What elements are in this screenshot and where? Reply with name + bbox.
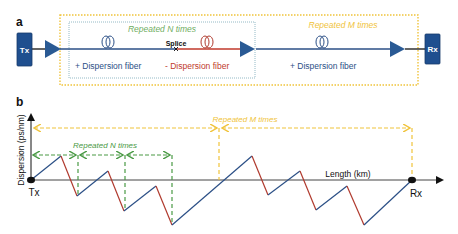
tx-point — [27, 177, 35, 183]
rx-label: Rx — [427, 45, 438, 54]
tx-label: Tx — [20, 46, 30, 55]
panel-b-label: b — [16, 95, 23, 109]
splice-label: Splice — [166, 40, 187, 48]
dispersion-map-figure: a Repeated N times Repeated M times Tx R… — [0, 0, 458, 234]
dispersion-map-curve — [31, 156, 412, 225]
positive-fiber-label-2: + Dispersion fiber — [290, 61, 357, 71]
panel-a-label: a — [16, 15, 23, 29]
amplifier-icon — [390, 41, 405, 57]
repeat-m-label: Repeated M times — [309, 20, 379, 30]
y-axis-label: Dispersion (ps/nm) — [16, 114, 26, 185]
x-axis-label: Length (km) — [325, 169, 371, 179]
repeat-m-label-b: Repeated M times — [213, 115, 278, 124]
repeat-n-label: Repeated N times — [128, 24, 197, 34]
tx-box: Tx — [17, 33, 32, 66]
fiber-coil-icon — [201, 36, 213, 48]
panel-b: b Dispersion (ps/nm) Length (km) Repeate… — [16, 95, 442, 225]
repeat-n-label-b: Repeated N times — [73, 141, 137, 150]
panel-a: a Repeated N times Repeated M times Tx R… — [16, 15, 440, 85]
rx-point — [408, 177, 416, 183]
rx-box: Rx — [425, 34, 440, 64]
tx-label-b: Tx — [28, 187, 39, 198]
rx-label-b: Rx — [410, 188, 422, 199]
amplifier-icon — [45, 40, 61, 58]
fiber-coil-icon — [316, 36, 328, 48]
fiber-coil-icon — [102, 36, 114, 48]
amplifier-icon — [240, 41, 255, 57]
positive-fiber-label-1: + Dispersion fiber — [75, 61, 142, 71]
negative-fiber-label: - Dispersion fiber — [165, 61, 229, 71]
